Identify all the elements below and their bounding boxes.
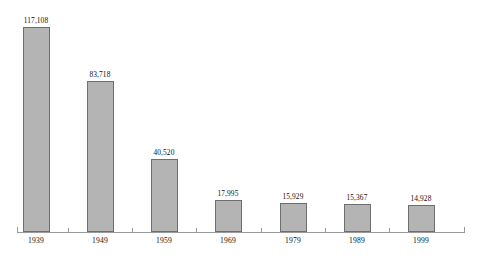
- bar-1949[interactable]: [87, 81, 114, 232]
- x-axis-tick-1: [68, 228, 69, 232]
- bar-1959[interactable]: [151, 159, 178, 232]
- bar-group-1939[interactable]: 117,108: [4, 17, 68, 232]
- x-tick-label-1949: 1949: [68, 237, 132, 245]
- bar-1979[interactable]: [280, 203, 307, 232]
- x-axis-tick-end: [464, 227, 465, 232]
- x-axis-tick-3: [196, 228, 197, 232]
- bar-chart: 117,108 83,718 40,520 17,995 15,929 15,3…: [0, 0, 478, 258]
- x-tick-label-1969: 1969: [196, 237, 260, 245]
- bar-value-label-1939: 117,108: [24, 17, 48, 24]
- bar-value-label-1999: 14,928: [411, 195, 432, 202]
- x-axis-tick-start: [17, 227, 18, 232]
- x-axis-tick-2: [132, 228, 133, 232]
- bar-value-label-1989: 15,367: [347, 194, 368, 201]
- bar-1999[interactable]: [408, 205, 435, 232]
- bar-group-1969[interactable]: 17,995: [196, 17, 260, 232]
- bar-group-1989[interactable]: 15,367: [325, 17, 389, 232]
- bar-value-label-1979: 15,929: [283, 193, 304, 200]
- x-tick-label-1959: 1959: [132, 237, 196, 245]
- bar-group-1959[interactable]: 40,520: [132, 17, 196, 232]
- bar-value-label-1969: 17,995: [218, 190, 239, 197]
- x-axis-tick-6: [389, 228, 390, 232]
- bar-1969[interactable]: [215, 200, 242, 232]
- x-tick-label-1999: 1999: [389, 237, 453, 245]
- x-axis-line: [17, 232, 465, 233]
- bar-group-1999[interactable]: 14,928: [389, 17, 453, 232]
- bar-group-1979[interactable]: 15,929: [261, 17, 325, 232]
- x-axis-tick-5: [325, 228, 326, 232]
- bar-group-1949[interactable]: 83,718: [68, 17, 132, 232]
- bar-value-label-1959: 40,520: [154, 149, 175, 156]
- bar-1989[interactable]: [344, 204, 371, 232]
- x-tick-label-1939: 1939: [4, 237, 68, 245]
- bar-value-label-1949: 83,718: [90, 71, 111, 78]
- x-tick-label-1989: 1989: [325, 237, 389, 245]
- plot-area: 117,108 83,718 40,520 17,995 15,929 15,3…: [0, 0, 478, 258]
- x-tick-label-1979: 1979: [261, 237, 325, 245]
- bar-1939[interactable]: [23, 27, 50, 232]
- x-axis-tick-4: [261, 228, 262, 232]
